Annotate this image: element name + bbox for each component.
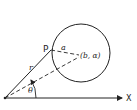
dashed-line-to-center [5,57,79,98]
label-radius-a: a [61,43,66,52]
label-radius-r: r [29,63,34,72]
origin-point [4,97,7,100]
label-point-p: P [43,44,49,54]
polar-circle-diagram: P a (b, α) r θ X [0,0,137,110]
label-angle-theta: θ [28,86,33,95]
label-x-axis: X [126,94,132,103]
label-center: (b, α) [80,51,101,60]
